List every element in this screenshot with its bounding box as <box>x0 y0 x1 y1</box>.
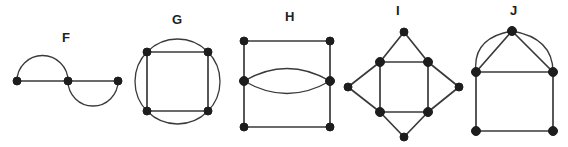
vertex-g-bottom-right <box>204 107 212 115</box>
vertex-i-inner-top-right <box>424 58 433 67</box>
vertex-g-bottom-left <box>143 107 151 115</box>
vertex-h-mid-left <box>240 77 249 86</box>
vertex-i-top <box>400 28 408 36</box>
vertex-j-top-right <box>549 68 558 77</box>
vertex-i-inner-bottom-right <box>424 108 433 117</box>
edge-i-left-to-inner-top-left <box>348 62 380 87</box>
edge-i-bottom-to-inner-bottom-right <box>404 112 428 137</box>
vertex-h-top-right <box>326 37 334 45</box>
vertex-h-top-left <box>240 37 248 45</box>
vertex-h-bottom-right <box>326 123 334 131</box>
edge-i-left-to-inner-bottom-left <box>348 87 380 112</box>
vertex-f-left <box>13 77 21 85</box>
vertex-j-apex <box>508 27 517 36</box>
edge-i-bottom-to-inner-bottom-left <box>380 112 404 137</box>
vertex-h-bottom-left <box>240 123 248 131</box>
edge-h-lens-arc-above <box>244 69 330 82</box>
vertex-i-inner-bottom-left <box>376 108 385 117</box>
graph-J <box>472 27 558 136</box>
vertex-g-top-right <box>204 48 212 56</box>
vertex-j-top-left <box>472 68 481 77</box>
graph-drawing-canvas <box>0 0 568 147</box>
graph-figure: F G H I J <box>0 0 568 147</box>
edge-h-lens-arc-below <box>244 81 330 94</box>
edge-i-top-to-inner-top-left <box>380 32 404 62</box>
graph-F <box>13 56 122 106</box>
edge-i-top-to-inner-top-right <box>404 32 428 62</box>
vertex-i-inner-top-left <box>376 58 385 67</box>
edge-f-arc-below <box>68 81 118 106</box>
graph-label-f: F <box>62 31 70 44</box>
edge-f-arc-above <box>17 56 68 81</box>
vertex-j-bottom-left <box>472 127 481 136</box>
graph-H <box>240 37 335 131</box>
vertex-j-bottom-right <box>549 127 558 136</box>
graph-G <box>135 39 220 124</box>
vertex-i-right <box>455 83 463 91</box>
graph-label-g: G <box>172 13 182 26</box>
vertex-g-top-left <box>143 48 151 56</box>
graph-label-i: I <box>396 4 400 17</box>
graph-label-j: J <box>510 4 518 17</box>
edge-i-right-to-inner-bottom-right <box>428 87 459 112</box>
vertex-h-mid-right <box>326 77 335 86</box>
edge-i-right-to-inner-top-right <box>428 62 459 87</box>
vertex-f-right <box>114 77 122 85</box>
vertex-i-left <box>344 83 352 91</box>
vertex-f-middle <box>64 77 72 85</box>
graph-label-h: H <box>285 10 295 23</box>
vertex-i-bottom <box>400 133 408 141</box>
graph-I <box>344 28 463 141</box>
